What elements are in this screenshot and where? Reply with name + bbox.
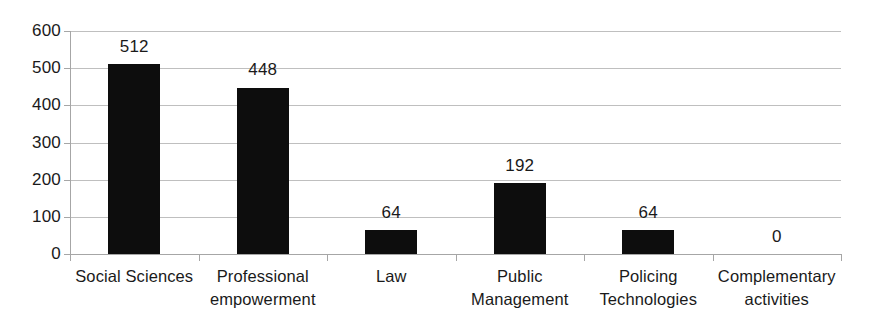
- x-axis-tick: [70, 254, 71, 261]
- y-axis-labels: 600 500 400 300 200 100 0: [0, 0, 61, 328]
- y-axis-tick: [64, 143, 70, 144]
- bar[interactable]: [108, 64, 160, 254]
- x-axis-category-label: PolicingTechnologies: [584, 265, 713, 311]
- x-axis-tick: [584, 254, 585, 261]
- bar-value-label: 512: [70, 38, 199, 55]
- x-axis-category-label: Complementaryactivities: [713, 265, 842, 311]
- y-axis-tick-label: 0: [5, 245, 61, 262]
- x-axis-category-label-line: Professional: [199, 265, 328, 288]
- y-axis-tick: [64, 31, 70, 32]
- x-axis-category-label-line: Complementary: [713, 265, 842, 288]
- x-axis-tick: [841, 254, 842, 261]
- x-axis-tick: [713, 254, 714, 261]
- x-axis-category-label: PublicManagement: [456, 265, 585, 311]
- bar-chart: 600 500 400 300 200 100 0 51244864192640…: [0, 0, 871, 328]
- bar[interactable]: [622, 230, 674, 254]
- bar[interactable]: [237, 88, 289, 255]
- x-axis-category-label-line: Law: [327, 265, 456, 288]
- bar[interactable]: [494, 183, 546, 254]
- bar-value-label: 0: [713, 228, 842, 245]
- x-axis-category-label-line: Social Sciences: [70, 265, 199, 288]
- y-axis-tick-label: 500: [5, 59, 61, 76]
- x-axis-tick: [327, 254, 328, 261]
- x-axis-category-label-line: empowerment: [199, 288, 328, 311]
- x-axis-category-label-line: Technologies: [584, 288, 713, 311]
- bar[interactable]: [365, 230, 417, 254]
- x-axis-category-labels: Social SciencesProfessionalempowermentLa…: [70, 265, 841, 325]
- y-axis-tick-label: 100: [5, 208, 61, 225]
- bar-value-label: 64: [584, 204, 713, 221]
- y-axis-tick: [64, 217, 70, 218]
- y-axis-tick-label: 300: [5, 134, 61, 151]
- y-axis-tick: [64, 180, 70, 181]
- y-axis-tick-label: 200: [5, 171, 61, 188]
- x-axis-tick: [456, 254, 457, 261]
- bar-value-label: 64: [327, 204, 456, 221]
- y-axis-tick-label: 600: [5, 22, 61, 39]
- x-axis-category-label: Law: [327, 265, 456, 288]
- y-axis-tick-label: 400: [5, 96, 61, 113]
- bar-value-label: 448: [199, 61, 328, 78]
- x-axis-tick: [199, 254, 200, 261]
- x-axis-category-label-line: Policing: [584, 265, 713, 288]
- x-axis-category-label: Professionalempowerment: [199, 265, 328, 311]
- x-axis-category-label-line: activities: [713, 288, 842, 311]
- x-axis-category-label: Social Sciences: [70, 265, 199, 288]
- bar-value-label: 192: [456, 157, 585, 174]
- y-axis-tick: [64, 105, 70, 106]
- x-axis-category-label-line: Public: [456, 265, 585, 288]
- x-axis-category-label-line: Management: [456, 288, 585, 311]
- y-axis-tick: [64, 68, 70, 69]
